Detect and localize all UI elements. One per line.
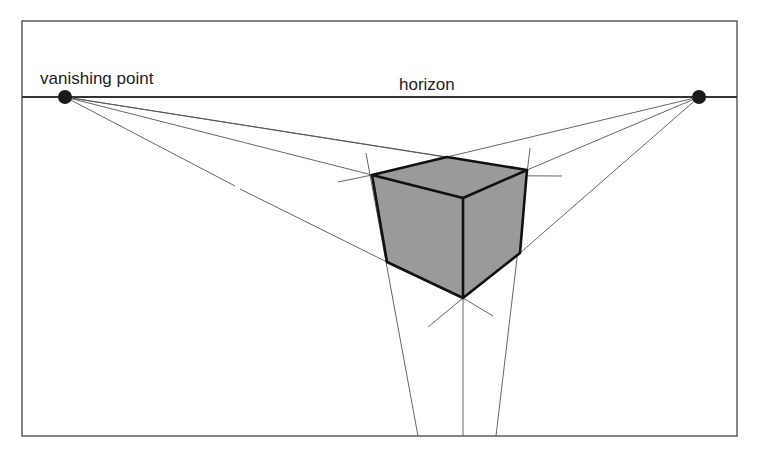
perspective-diagram: vanishing point horizon bbox=[0, 0, 759, 451]
horizon-label: horizon bbox=[399, 75, 455, 94]
vanishing-point-label: vanishing point bbox=[40, 69, 154, 88]
right-vanishing-point-dot bbox=[692, 90, 706, 104]
cube-fill bbox=[372, 157, 527, 298]
left-vanishing-point-dot bbox=[58, 90, 72, 104]
